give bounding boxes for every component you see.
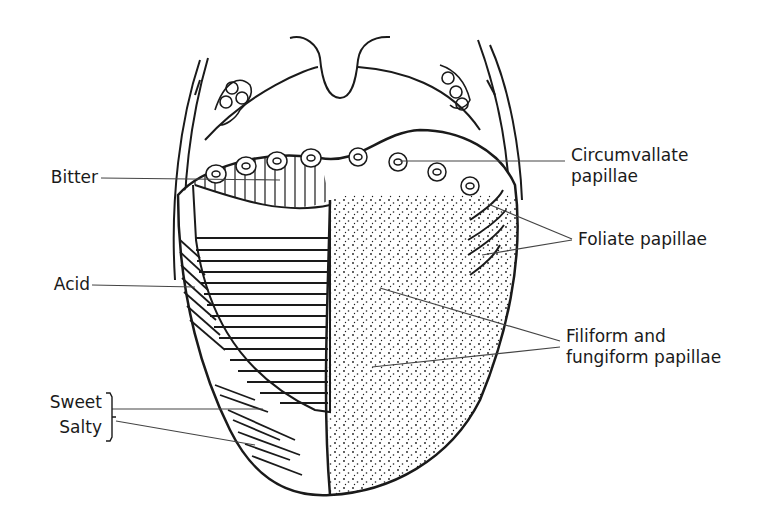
label-acid: Acid [20, 274, 90, 295]
label-foliate: Foliate papillae [578, 229, 707, 250]
label-sweet: Sweet [20, 392, 102, 413]
label-circumvallate: Circumvallate papillae [571, 145, 688, 187]
tongue-illustration [0, 0, 774, 508]
label-bitter: Bitter [20, 167, 98, 188]
filiform-stipple [325, 195, 525, 500]
tongue-diagram: Bitter Acid Sweet Salty Circumvallate pa… [0, 0, 774, 508]
palate-uvula [205, 37, 480, 140]
label-salty: Salty [20, 417, 102, 438]
tonsils [215, 65, 470, 125]
sweet-salty-bracket [106, 393, 116, 441]
label-filiform-fungiform: Filiform and fungiform papillae [566, 326, 721, 368]
